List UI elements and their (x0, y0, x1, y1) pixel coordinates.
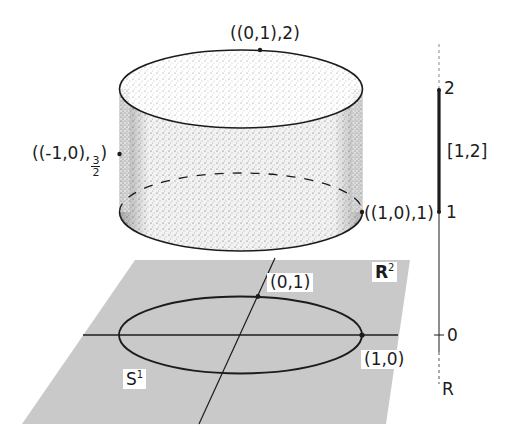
point-0-1 (256, 294, 261, 299)
real-line (434, 44, 444, 384)
label-r2: R2 (372, 262, 397, 282)
label-tick-0: 0 (447, 327, 458, 344)
label-left-point: ((-1,0),32) (32, 145, 107, 178)
label-plane-point-0-1: (0,1) (267, 273, 313, 292)
point-1-0 (359, 332, 364, 337)
cylinder (117, 48, 364, 251)
label-tick-1: 1 (446, 204, 457, 221)
label-s1: S1 (123, 369, 146, 389)
point-left (117, 152, 121, 156)
label-tick-2: 2 (444, 80, 455, 97)
label-axis-r: R (442, 381, 454, 398)
cylinder-diagram (0, 0, 511, 445)
label-plane-point-1-0: (1,0) (361, 350, 407, 369)
point-top (258, 48, 262, 52)
label-interval: [1,2] (447, 143, 487, 160)
label-top-point: ((0,1),2) (230, 25, 300, 42)
plane-r2 (22, 258, 410, 424)
label-right-point: ((1,0),1) (364, 205, 434, 222)
